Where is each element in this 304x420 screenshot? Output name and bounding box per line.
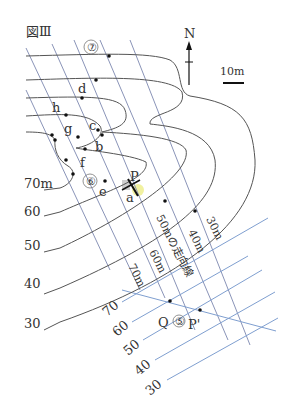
svg-text:⑤: ⑤	[175, 315, 185, 328]
scale-label: 10m	[220, 65, 245, 78]
lower-label-50: 50	[120, 336, 142, 358]
scale-bar: 10m	[220, 65, 245, 83]
point-h: h	[52, 100, 61, 115]
point-f: f	[80, 155, 86, 170]
route-6-label: ⑥	[83, 174, 97, 188]
lower-label-70: 70	[99, 297, 121, 319]
point-b: b	[95, 139, 103, 154]
map-svg: 図Ⅲ ⑦ ⑥ ⑤ N 10m d h c g b f e P a Q P' 70…	[0, 0, 304, 420]
north-arrow: N	[184, 26, 195, 85]
route-5-label: ⑤	[173, 315, 185, 328]
point-q: Q	[158, 315, 169, 330]
point-p-prime: P'	[188, 317, 200, 332]
strike-label-40m: 40m	[185, 227, 208, 255]
lower-label-40: 40	[131, 356, 153, 378]
point-e: e	[99, 184, 107, 199]
lower-label-60: 60	[109, 317, 131, 339]
route-lines	[26, 40, 250, 345]
point-a: a	[126, 190, 134, 205]
contour-label-30: 30	[24, 316, 41, 331]
point-p: P	[130, 169, 139, 184]
contour-label-40: 40	[24, 276, 41, 291]
north-label: N	[184, 26, 195, 41]
contour-label-60: 60	[24, 204, 41, 219]
strike-label-30m: 30m	[203, 214, 226, 242]
svg-text:⑥: ⑥	[86, 175, 96, 188]
contour-label-70: 70m	[24, 176, 53, 191]
figure-title: 図Ⅲ	[26, 24, 52, 39]
geologic-map-figure: 図Ⅲ ⑦ ⑥ ⑤ N 10m d h c g b f e P a Q P' 70…	[0, 0, 304, 420]
route-7-label: ⑦	[84, 40, 98, 54]
strike-label-60m: 60m	[146, 247, 169, 275]
point-c: c	[89, 118, 96, 133]
point-g: g	[64, 121, 72, 136]
lower-label-30: 30	[142, 376, 164, 398]
svg-text:⑦: ⑦	[87, 41, 97, 54]
contour-label-50: 50	[24, 238, 41, 253]
point-d: d	[78, 81, 86, 96]
